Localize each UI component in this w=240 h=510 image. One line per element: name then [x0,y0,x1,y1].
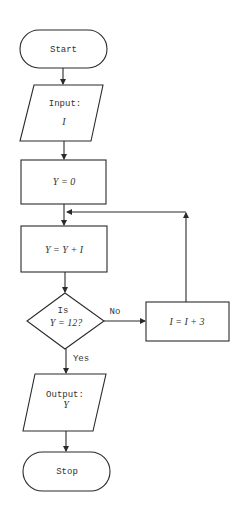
decision-line2: Y = 12? [50,317,82,328]
decision-node: Is Y = 12? [27,293,104,349]
init-label: Y = 0 [53,176,75,187]
stop-node: Stop [23,452,110,491]
stop-label: Stop [56,467,78,477]
decision-line1: Is [58,306,69,316]
increment-node: I = I + 3 [146,302,229,341]
output-node: Output: Y [23,374,106,431]
no-label: No [110,307,121,317]
accumulate-node: Y = Y + I [21,226,107,272]
start-node: Start [20,30,107,68]
start-label: Start [50,45,77,55]
input-node: Input: I [20,85,103,141]
yes-label: Yes [73,354,89,364]
increment-label: I = I + 3 [168,316,204,327]
accumulate-label: Y = Y + I [45,244,84,255]
input-var: I [61,116,66,127]
input-label: Input: [49,99,81,109]
flowchart: Start Input: I Y = 0 Y = Y + I Is Y = 12… [0,0,240,510]
init-node: Y = 0 [21,160,106,204]
